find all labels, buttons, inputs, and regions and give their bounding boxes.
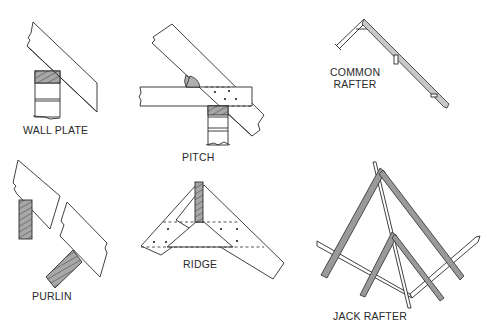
label-common-rafter-line2: RAFTER [330, 78, 380, 90]
label-ridge: RIDGE [183, 258, 217, 270]
label-purlin: PURLIN [32, 290, 72, 302]
roof-components-diagram [0, 0, 493, 331]
label-pitch: PITCH [182, 151, 215, 163]
purlin-drawing [13, 160, 107, 288]
wall-plate-drawing [27, 22, 97, 119]
label-wall-plate: WALL PLATE [23, 124, 88, 136]
pitch-drawing [139, 24, 264, 145]
label-common-rafter-line1: COMMON [330, 66, 380, 78]
label-jack-rafter: JACK RAFTER [333, 310, 407, 322]
label-common-rafter: COMMON RAFTER [330, 66, 380, 90]
jack-rafter-drawing [317, 162, 480, 308]
common-rafter-drawing [335, 19, 449, 108]
